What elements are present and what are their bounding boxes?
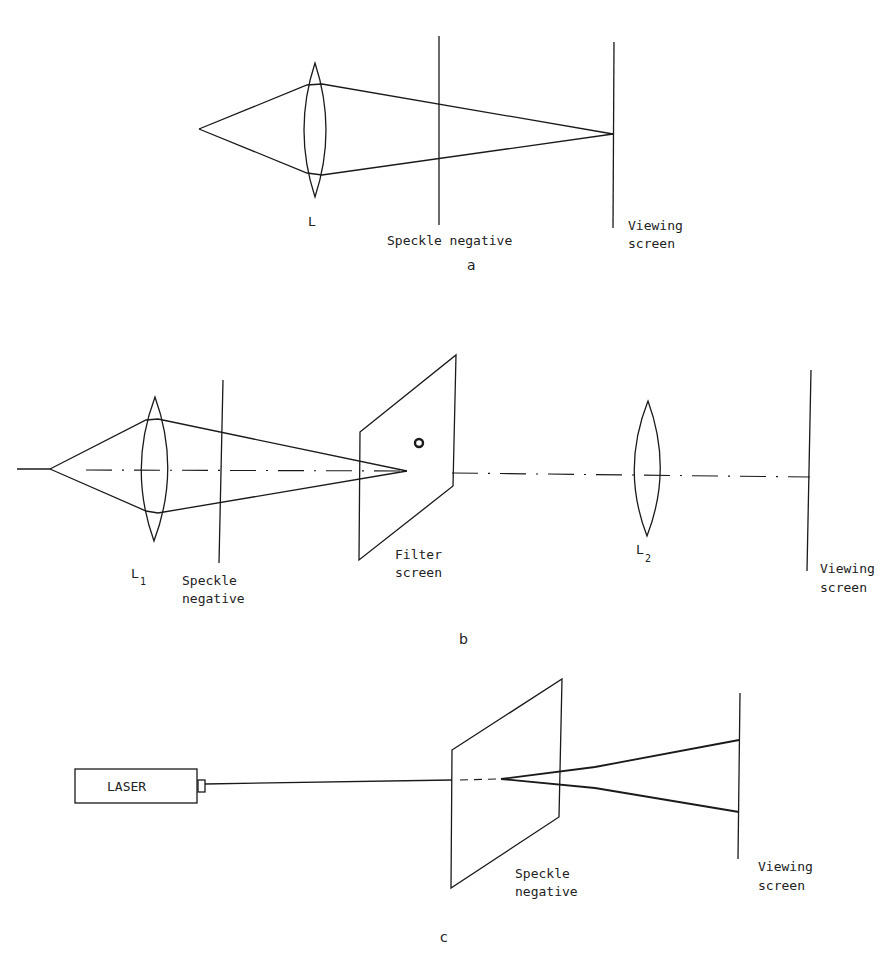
lens-l2 — [634, 401, 660, 536]
panel-a: L Speckle negative Viewing screen a — [199, 36, 683, 273]
speckle-negative-plate — [219, 380, 223, 563]
lens2-subscript: 2 — [645, 553, 651, 564]
viewing-screen-label-2: screen — [628, 236, 675, 251]
optical-axis-1 — [86, 470, 410, 471]
filter-screen-label-2: screen — [395, 565, 442, 580]
viewing-screen — [807, 370, 811, 571]
speckle-negative-label-1: Speckle — [182, 573, 237, 588]
diffracted-ray-upper — [501, 740, 739, 779]
lens1-subscript: 1 — [140, 576, 146, 587]
lens1-label: L — [131, 566, 139, 581]
optical-axis-2 — [452, 473, 810, 477]
speckle-negative-label-1: Speckle — [515, 866, 570, 881]
lens2-label: L — [636, 542, 644, 557]
ray-lower — [199, 129, 613, 175]
speckle-negative-label-2: negative — [182, 591, 245, 606]
viewing-screen-label-1: Viewing — [820, 561, 875, 576]
panel-b: L 1 Speckle negative Filter screen L 2 V… — [17, 355, 875, 647]
viewing-screen — [613, 42, 614, 228]
speckle-negative-label: Speckle negative — [387, 233, 512, 248]
viewing-screen-label-2: screen — [758, 878, 805, 893]
laser-label: LASER — [107, 779, 146, 794]
laser-beam — [205, 780, 452, 784]
lens-label: L — [308, 214, 316, 229]
laser-aperture — [198, 780, 205, 792]
filter-aperture — [415, 439, 423, 447]
hidden-beam — [460, 779, 498, 780]
caption-b: b — [459, 631, 468, 647]
filter-screen-label-1: Filter — [395, 547, 442, 562]
caption-c: c — [440, 929, 448, 945]
speckle-optics-diagram: L Speckle negative Viewing screen a L 1 … — [0, 0, 889, 959]
speckle-negative-label-2: negative — [515, 884, 578, 899]
filter-screen — [359, 355, 456, 560]
viewing-screen — [738, 693, 740, 859]
viewing-screen-label-1: Viewing — [758, 859, 813, 874]
lens-l1 — [141, 397, 168, 541]
ray-upper — [199, 84, 613, 134]
viewing-screen-label-1: Viewing — [628, 218, 683, 233]
caption-a: a — [467, 257, 476, 273]
diffracted-ray-lower — [501, 779, 739, 812]
ray-lower — [50, 469, 407, 513]
panel-c: LASER Speckle negative Viewing screen c — [75, 679, 813, 945]
lens-l — [304, 63, 326, 197]
viewing-screen-label-2: screen — [820, 580, 867, 595]
ray-upper — [50, 419, 407, 471]
